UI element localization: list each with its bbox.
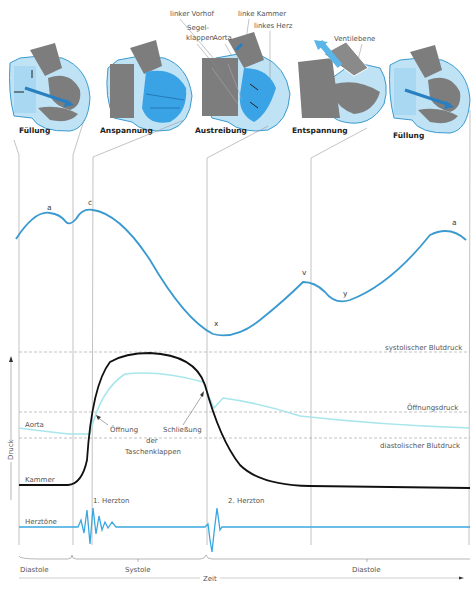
phase-label-ejection: Austreibung [195, 126, 247, 135]
heart-illustration-filling-2 [390, 45, 471, 133]
cycle-phase-braces [19, 555, 470, 562]
ventricle-pressure-curve [19, 353, 470, 488]
venous-point-a1: a [47, 203, 52, 212]
label-second-heart-sound: 2. Herzton [228, 497, 265, 505]
label-left-ventricle: linke Kammer [238, 10, 286, 18]
y-axis-label: Druck [7, 438, 15, 460]
heart-sounds-trace [19, 508, 470, 552]
venous-point-c: c [88, 198, 92, 207]
phase-label-tension: Anspannung [100, 126, 153, 135]
label-sail-valves-2: klappen [186, 34, 214, 42]
heart-illustration-tension [107, 40, 192, 131]
cardiac-cycle-diagram: Füllung Anspannung Austreibung Entspannu… [0, 0, 476, 589]
label-pocket-valves: Taschenklappen [124, 448, 181, 456]
label-opening-pressure: Öffnungsdruck [407, 403, 459, 412]
aorta-pressure-curve [19, 373, 470, 434]
label-left-atrium: linker Vorhof [170, 10, 215, 18]
label-systole: Systole [125, 566, 151, 574]
label-first-heart-sound: 1. Herzton [93, 497, 130, 505]
label-diastolic-pressure: diastolischer Blutdruck [380, 442, 461, 450]
label-diastole-1: Diastole [20, 566, 49, 574]
x-axis-label: Zeit [203, 575, 217, 583]
heart-illustration-relaxation [298, 40, 386, 123]
label-ventricle-curve: Kammer [25, 476, 55, 484]
time-x-axis [19, 577, 464, 580]
heart-illustration-filling-1 [10, 43, 91, 131]
phase-label-relaxation: Entspannung [292, 126, 348, 135]
phase-label-filling-2: Füllung [393, 131, 424, 140]
venous-point-a2: a [452, 218, 457, 227]
label-opening: Öffnung [110, 425, 138, 434]
valve-annotation-arrows [97, 394, 203, 425]
label-heart-sounds: Herztöne [25, 518, 57, 526]
label-closing: Schließung [163, 426, 202, 434]
venous-point-x: x [214, 319, 219, 328]
label-of-the: der [146, 437, 158, 445]
label-left-heart: linkes Herz [254, 22, 293, 30]
label-valve-plane: Ventilebene [334, 35, 375, 43]
label-diastole-2: Diastole [352, 566, 381, 574]
phase-connector-lines [14, 110, 470, 545]
pressure-y-axis [9, 356, 13, 500]
heart-illustration-ejection [202, 32, 290, 131]
venous-point-y: y [343, 289, 348, 298]
label-aorta-curve: Aorta [25, 421, 44, 429]
label-systolic-pressure: systolischer Blutdruck [385, 344, 463, 352]
label-aorta-anatomy: Aorta [213, 34, 232, 42]
venous-pulse-curve [16, 210, 466, 336]
phase-label-filling-1: Füllung [19, 126, 50, 135]
venous-point-v: v [302, 268, 307, 277]
